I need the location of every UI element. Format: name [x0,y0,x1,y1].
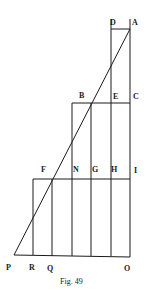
geometric-figure: D A B E C F N G H I P R Q O Fig. 49 [0,0,149,301]
label-R: R [29,263,35,272]
label-P: P [6,263,11,272]
label-C: C [133,92,139,101]
label-Q: Q [47,264,53,273]
label-E: E [113,92,118,101]
label-F: F [41,165,46,174]
label-A: A [132,18,138,27]
label-D: D [110,18,116,27]
label-B: B [79,91,85,100]
label-H: H [111,165,118,174]
label-G: G [92,165,98,174]
label-O: O [124,264,130,273]
label-N: N [73,165,79,174]
figure-canvas: D A B E C F N G H I P R Q O Fig. 49 [0,0,149,301]
label-I: I [134,166,137,175]
figure-caption: Fig. 49 [60,277,83,286]
